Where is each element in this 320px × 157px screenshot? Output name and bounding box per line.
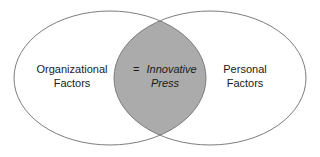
intersection-label-line2: Press (151, 77, 180, 89)
right-set-label-line2: Factors (227, 77, 264, 89)
left-set-label-line2: Factors (54, 77, 91, 89)
right-set-label-line1: Personal (223, 63, 266, 75)
venn-diagram-figure: Organizational Factors = Innovative Pres… (0, 0, 320, 157)
venn-diagram-canvas: Organizational Factors = Innovative Pres… (0, 0, 320, 157)
intersection-label-word: Innovative (147, 63, 197, 75)
left-set-label-line1: Organizational (37, 63, 108, 75)
equals-sign: = (133, 63, 139, 75)
